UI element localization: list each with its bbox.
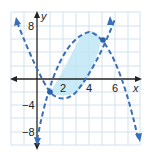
intersection-point-1: [47, 89, 53, 95]
arrow-top-left: [14, 17, 21, 26]
x-axis-label: x: [132, 82, 139, 94]
tick-label-2: 2: [60, 82, 66, 94]
graph: 8 y −4 −8 2 4 6 x: [0, 0, 149, 155]
coordinate-plane: 8 y −4 −8 2 4 6 x: [0, 0, 149, 155]
tick-label-6: 6: [112, 82, 118, 94]
tick-label-8: 8: [28, 20, 34, 32]
intersection-point-2: [100, 37, 106, 43]
tick-label-minus-8: −8: [22, 126, 35, 138]
tick-label-minus-4: −4: [22, 99, 35, 111]
arrow-bottom-right: [135, 133, 142, 142]
arrow-top-right: [107, 16, 114, 25]
tick-label-4: 4: [86, 82, 92, 94]
